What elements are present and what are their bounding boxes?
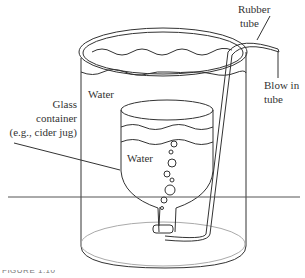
jug-water-line-2 <box>121 140 213 145</box>
tank-rim-outer <box>79 28 247 76</box>
label-inner-water: Water <box>127 151 153 165</box>
air-bubbles <box>161 141 178 210</box>
apparatus-diagram <box>0 0 305 278</box>
label-outer-water: Water <box>88 87 114 101</box>
jug-water-line-1 <box>121 125 213 130</box>
glass-container-leader <box>14 143 120 170</box>
label-line: tube <box>264 92 299 106</box>
label-rubber-tube: Rubber tube <box>238 2 270 30</box>
label-line: container <box>10 111 78 125</box>
label-line: Glass <box>10 97 78 111</box>
label-line: Rubber <box>238 2 270 16</box>
tank-floor <box>81 222 245 266</box>
label-blow-in-tube: Blow in tube <box>264 78 299 106</box>
tank-rim-inner <box>83 32 243 74</box>
stopper <box>153 225 173 233</box>
jug-top <box>121 100 213 120</box>
label-line: tube <box>238 16 270 30</box>
label-glass-container: Glass container (e.g., cider jug) <box>10 97 78 139</box>
label-line: (e.g., cider jug) <box>10 125 78 139</box>
water-surface-top <box>92 48 232 55</box>
tank-bottom <box>81 246 246 268</box>
label-line: Blow in <box>264 78 299 92</box>
